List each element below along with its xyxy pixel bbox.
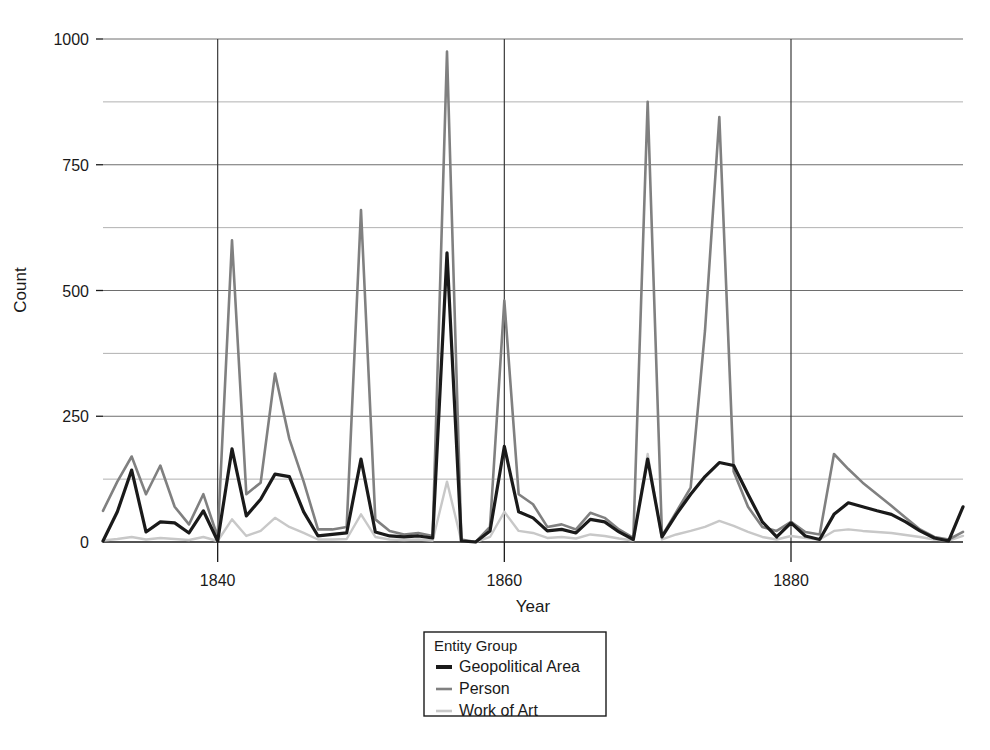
x-axis-title: Year xyxy=(516,597,551,616)
line-chart: 02505007501000 Count 184018601880 Year E… xyxy=(0,0,990,750)
x-tick-label: 1840 xyxy=(200,572,236,589)
y-tick-label: 0 xyxy=(80,534,89,551)
y-tick-label: 500 xyxy=(62,283,89,300)
y-tick-label: 1000 xyxy=(53,31,89,48)
y-tick-label: 250 xyxy=(62,408,89,425)
chart-figure: 02505007501000 Count 184018601880 Year E… xyxy=(0,0,990,750)
legend-label-work-of-art: Work of Art xyxy=(459,702,538,719)
x-tick-label: 1880 xyxy=(773,572,809,589)
x-tick-label: 1860 xyxy=(487,572,523,589)
chart-legend: Entity Group Geopolitical AreaPersonWork… xyxy=(424,632,606,719)
legend-label-person: Person xyxy=(459,680,510,697)
legend-label-geopolitical-area: Geopolitical Area xyxy=(459,658,580,675)
y-tick-label: 750 xyxy=(62,157,89,174)
legend-title: Entity Group xyxy=(434,637,517,654)
y-axis-title: Count xyxy=(11,267,30,313)
